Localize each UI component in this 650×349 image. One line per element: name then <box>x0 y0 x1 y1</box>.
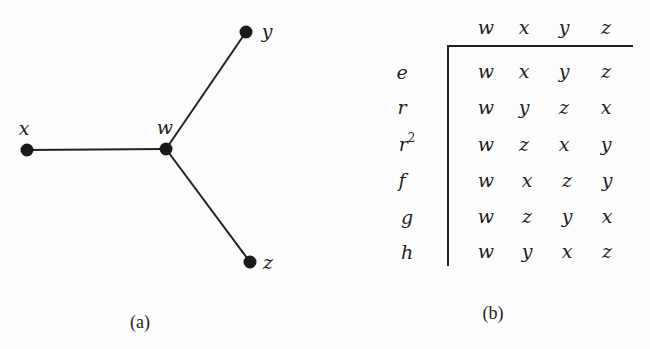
table-cell: x <box>519 62 530 81</box>
row-label-e: e <box>396 63 407 82</box>
table-row-rule <box>447 45 449 266</box>
edge-w-z <box>166 149 250 262</box>
table-cell: z <box>601 62 611 81</box>
table-cell: w <box>478 135 494 154</box>
table-cell: z <box>519 135 529 154</box>
table-cell: w <box>478 62 494 81</box>
table-header-rule <box>447 45 633 47</box>
column-header-x: x <box>519 18 530 37</box>
table-cell: w <box>478 171 494 190</box>
column-header-y: y <box>559 18 570 37</box>
node-label-y: y <box>262 22 273 41</box>
table-cell: y <box>519 98 530 117</box>
table-cell: z <box>522 207 532 226</box>
edge-w-y <box>166 32 246 149</box>
row-label-base: r <box>399 133 408 155</box>
table-cell: x <box>522 171 533 190</box>
table-cell: y <box>601 135 612 154</box>
table-cell: y <box>602 171 613 190</box>
row-label-exponent: 2 <box>408 131 416 145</box>
node-label-x: x <box>19 119 30 138</box>
table-cell: x <box>559 135 570 154</box>
table-cell: x <box>602 207 613 226</box>
star-graph <box>0 0 650 349</box>
table-cell: y <box>522 242 533 261</box>
node-label-w: w <box>157 118 173 137</box>
edge-x-w <box>27 149 166 150</box>
row-label-r-squared: r2 <box>399 134 416 154</box>
table-cell: y <box>559 62 570 81</box>
row-label-h: h <box>401 243 413 262</box>
table-cell: w <box>478 242 494 261</box>
caption-b: (b) <box>483 304 504 322</box>
table-cell: z <box>562 171 572 190</box>
column-header-w: w <box>478 18 494 37</box>
table-cell: x <box>562 242 573 261</box>
caption-a: (a) <box>130 313 150 331</box>
row-label-g: g <box>401 208 413 227</box>
node-x <box>21 144 34 157</box>
table-cell: z <box>559 98 569 117</box>
figure: x w y z (a) w x y z e w x y z r w y z x … <box>0 0 650 349</box>
column-header-z: z <box>601 18 611 37</box>
table-cell: y <box>562 207 573 226</box>
row-label-f: f <box>398 171 405 190</box>
table-cell: w <box>478 207 494 226</box>
node-label-z: z <box>263 253 273 272</box>
node-y <box>240 26 253 39</box>
table-cell: x <box>601 98 612 117</box>
row-label-r: r <box>397 98 406 117</box>
table-cell: z <box>602 242 612 261</box>
node-z <box>244 256 257 269</box>
table-cell: w <box>478 98 494 117</box>
node-w <box>160 143 173 156</box>
